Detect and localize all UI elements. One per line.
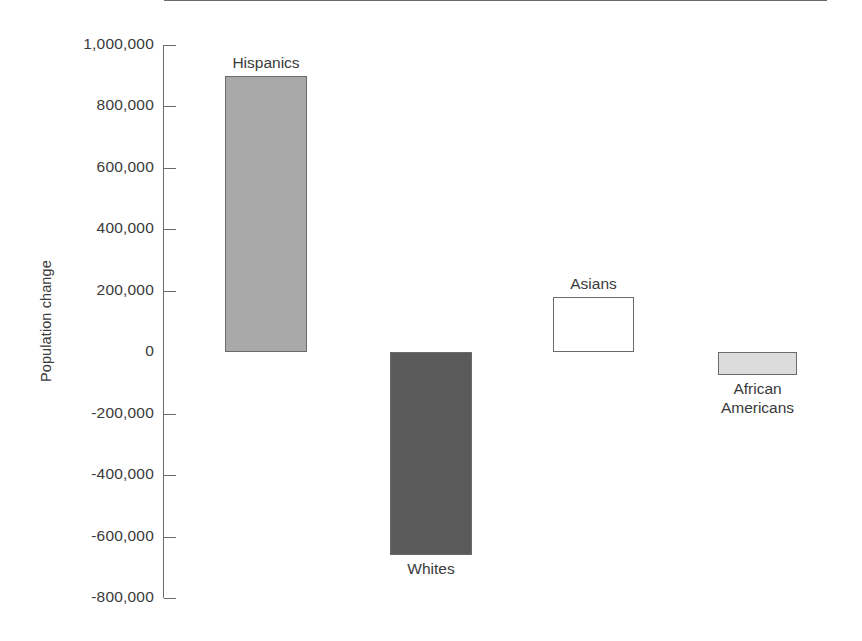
y-tick-label-wrap: -400,000 [28,465,154,485]
y-tick-label: 800,000 [34,96,154,114]
y-tick-label-wrap: 400,000 [28,219,154,239]
zero-baseline [164,0,827,1]
bar [718,352,797,375]
y-tick-label-wrap: -200,000 [28,404,154,424]
y-tick-label: 400,000 [34,219,154,237]
y-tick-mark [164,537,176,538]
y-tick-mark [164,168,176,169]
y-tick-mark [164,475,176,476]
bar [390,352,472,555]
bar-category-label: Whites [356,559,506,578]
y-tick-label-wrap: 800,000 [28,96,154,116]
y-tick-label: -400,000 [34,465,154,483]
y-tick-mark [164,291,176,292]
y-tick-label-wrap: -800,000 [28,588,154,608]
y-tick-label: 1,000,000 [34,35,154,53]
y-tick-mark [164,45,176,46]
y-tick-label: -200,000 [34,404,154,422]
y-tick-label: 600,000 [34,158,154,176]
y-tick-label-wrap: 1,000,000 [28,35,154,55]
y-axis-spine [163,45,164,598]
y-tick-label-wrap: 0 [28,342,154,362]
y-tick-label-wrap: -600,000 [28,527,154,547]
y-tick-mark [164,414,176,415]
bar-category-label: Asians [519,274,669,293]
plot-area: 1,000,000800,000600,000400,000200,0000-2… [0,0,862,641]
y-tick-label: -600,000 [34,527,154,545]
y-tick-label-wrap: 600,000 [28,158,154,178]
bar [225,76,307,353]
y-tick-mark [164,598,176,599]
y-tick-label: 200,000 [34,281,154,299]
bar-category-label: Hispanics [191,53,341,72]
y-tick-label-wrap: 200,000 [28,281,154,301]
y-tick-label: 0 [34,342,154,360]
bar-category-label: African Americans [683,379,833,417]
y-tick-label: -800,000 [34,588,154,606]
bar [553,297,634,352]
y-tick-mark [164,106,176,107]
y-tick-mark [164,229,176,230]
bar-chart-figure: Population change 1,000,000800,000600,00… [0,0,862,641]
